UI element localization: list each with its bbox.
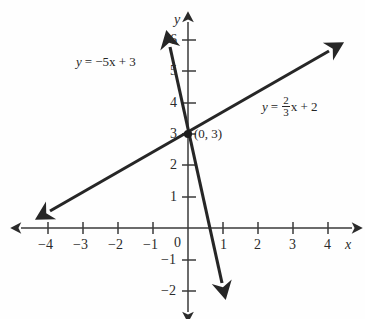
y-tick-label-neg1: −1 — [161, 253, 176, 267]
x-tick-label-3: 3 — [289, 238, 296, 252]
eq2-y: y — [262, 99, 268, 114]
x-tick-label-neg1: −1 — [143, 238, 158, 252]
eq2-equals: = — [271, 99, 278, 114]
y-axis-name: y — [174, 13, 180, 27]
y-tick-label-4: 4 — [170, 96, 177, 110]
equation-label-line1: y=−5x + 3 — [76, 55, 136, 68]
origin-label: 0 — [174, 236, 181, 250]
equation-label-line2: y=23x + 2 — [262, 96, 317, 119]
eq2-denominator: 3 — [282, 106, 290, 118]
eq1-equals: = — [85, 54, 92, 69]
y-tick-label-3: 3 — [170, 127, 177, 141]
eq2-fraction-two-thirds: 23 — [282, 95, 290, 118]
eq1-rhs: −5x + 3 — [95, 54, 136, 69]
x-tick-label-neg4: −4 — [38, 238, 53, 252]
graph-figure: −4 −3 −2 −1 1 2 3 4 0 6 5 4 3 2 1 −1 −2 … — [0, 0, 365, 319]
y-tick-label-neg2: −2 — [161, 284, 176, 298]
x-tick-label-neg3: −3 — [73, 238, 88, 252]
eq2-numerator: 2 — [282, 95, 290, 106]
intersection-point-dot — [184, 130, 192, 138]
x-tick-label-4: 4 — [324, 238, 331, 252]
intersection-point-label: (0, 3) — [194, 127, 222, 140]
y-axis-ticks — [182, 40, 196, 291]
x-tick-label-2: 2 — [254, 238, 261, 252]
eq1-y: y — [76, 54, 82, 69]
y-tick-label-6: 6 — [170, 33, 177, 47]
y-tick-label-1: 1 — [170, 190, 177, 204]
y-tick-label-5: 5 — [170, 64, 177, 78]
eq2-tail: x + 2 — [291, 99, 318, 114]
x-tick-label-neg2: −2 — [108, 238, 123, 252]
y-tick-label-2: 2 — [170, 158, 177, 172]
graph-canvas — [0, 0, 365, 319]
x-tick-label-1: 1 — [220, 238, 227, 252]
x-axis-name: x — [345, 238, 351, 252]
